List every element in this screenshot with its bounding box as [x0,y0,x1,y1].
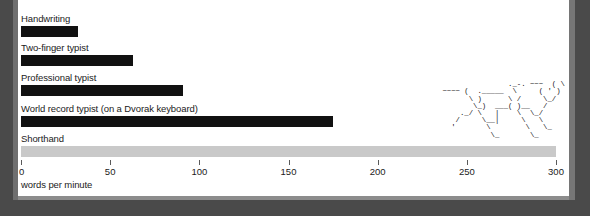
chart-canvas: HandwritingTwo-finger typistProfessional… [18,0,569,196]
x-axis-tick [110,160,111,165]
page-edge-right [575,0,590,206]
page-edge-bottom-shadow [0,216,590,222]
x-axis-tick-label: 100 [191,166,207,177]
bar [21,85,183,96]
x-axis-tick-label: 0 [19,166,24,177]
bar-category-label: World record typist (on a Dvorak keyboar… [21,103,198,114]
x-axis-tick-label: 150 [281,166,297,177]
bar-category-label: Two-finger typist [21,42,88,53]
page-edge-left [0,0,13,206]
x-axis-tick [378,160,379,165]
ascii-horse-icon: ~~~ ._-. ~~~ ( \ ~~~~ ( ._____ \ ( ' ) \… [438,74,569,139]
bar [21,146,556,157]
x-axis-title: words per minute [21,179,92,190]
bar-category-label: Shorthand [21,133,64,144]
x-axis-tick-label: 300 [548,166,564,177]
x-axis-tick-label: 50 [105,166,116,177]
x-axis: words per minute 050100150200250300 [18,160,569,196]
chart-page: HandwritingTwo-finger typistProfessional… [0,0,590,222]
page-edge-right-inner [569,0,575,206]
x-axis-tick [556,160,557,165]
x-axis-tick-label: 200 [370,166,386,177]
page-edge-bottom [0,200,590,216]
bar [21,26,78,37]
x-axis-tick [467,160,468,165]
bar-category-label: Handwriting [21,13,70,24]
bar [21,55,133,66]
bar [21,116,333,127]
bar-chart-plot: HandwritingTwo-finger typistProfessional… [18,0,569,196]
x-axis-tick-label: 250 [459,166,475,177]
x-axis-tick [289,160,290,165]
bar-category-label: Professional typist [21,72,96,83]
x-axis-tick [199,160,200,165]
x-axis-tick [21,160,22,165]
